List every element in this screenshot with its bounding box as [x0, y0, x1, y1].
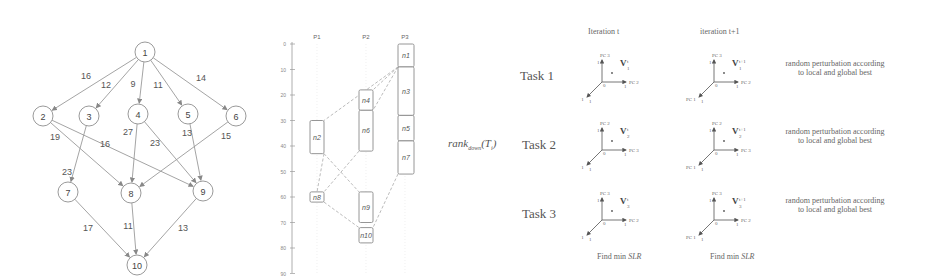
dependency-line: [324, 151, 359, 192]
edge-weight: 15: [221, 131, 231, 141]
velocity-vector-label: V: [620, 126, 627, 136]
task-1-label: Task 1: [520, 68, 554, 84]
axis-label-top: PC 2: [712, 121, 722, 126]
axis-label-right: PC 3: [629, 148, 639, 153]
velocity-vector-label: V: [732, 126, 739, 136]
dag-node: 6: [226, 106, 246, 126]
axis-label-right: PC 2: [741, 218, 751, 223]
axis-tick-one: 1: [701, 99, 704, 104]
velocity-vector-superscript: t+1: [739, 59, 746, 64]
task-box-label: n5: [402, 125, 410, 132]
find-min-text: Find min: [710, 252, 739, 261]
tick-label: 80: [280, 245, 286, 251]
axis-tick-one: 1: [709, 60, 712, 65]
perturb-line-2: to local and global best: [770, 136, 900, 145]
axis-origin: 0: [715, 221, 718, 226]
velocity-vector-superscript: t: [627, 59, 629, 64]
axis-diagonal: [699, 82, 714, 97]
axis-origin: 0: [603, 221, 606, 226]
slr-text: SLR: [628, 252, 641, 261]
axis-tick-one: 1: [597, 198, 600, 203]
dag-edge: [144, 198, 196, 256]
tick-label: 70: [280, 220, 286, 226]
edge-weight: 19: [50, 132, 60, 142]
velocity-vector-subscript: 2: [739, 134, 742, 139]
axis-label-left: PC 1: [580, 235, 584, 240]
axis-tick-one: 1: [589, 99, 592, 104]
scheduled-task: n8: [310, 192, 324, 202]
processor-label: P2: [362, 34, 370, 40]
axis-label-right: PC 2: [629, 218, 639, 223]
particle-axes: PC 3PC 2PC 11110Vt+11: [686, 53, 751, 104]
task-3-label: Task 3: [522, 206, 556, 222]
axis-label-left: PC 1: [686, 165, 696, 170]
axis-tick-one: 1: [701, 167, 704, 172]
rank-close: ): [493, 137, 497, 149]
axis-label-right: PC 2: [629, 80, 639, 85]
perturb-line-2: to local and global best: [770, 68, 900, 77]
edge-weight: 12: [101, 80, 111, 90]
axis-diagonal: [587, 150, 602, 165]
velocity-vector-label: V: [732, 196, 739, 206]
node-id: 10: [132, 261, 142, 271]
axis-label-top: PC 3: [712, 191, 722, 196]
axis-label-left: PC 1: [580, 165, 584, 170]
dependency-line: [324, 202, 359, 228]
time-axis-ticks: 0102030405060708090: [280, 41, 295, 277]
tick-label: 40: [280, 143, 286, 149]
task-box-label: n10: [360, 232, 372, 239]
edge-weight: 11: [123, 221, 132, 231]
task-box-label: n9: [362, 204, 370, 211]
node-id: 6: [233, 112, 238, 122]
dag-edges: [51, 57, 228, 257]
axis-tick-one: 1: [589, 167, 592, 172]
axis-label-top: PC 3: [600, 53, 610, 58]
velocity-vector-superscript: t+1: [739, 127, 746, 132]
axis-label-left: PC 1: [580, 97, 584, 102]
velocity-vector-label: V: [620, 196, 627, 206]
axis-diagonal: [587, 82, 602, 97]
tick-label: 60: [280, 194, 286, 200]
task-box-label: n2: [313, 134, 321, 141]
processor-label: P1: [313, 34, 321, 40]
axis-origin: 0: [603, 83, 606, 88]
particle-axes: PC 2PC 3PC 11110Vt+12: [686, 121, 751, 172]
axis-label-left: PC 1: [686, 235, 696, 240]
scheduled-task: n1: [398, 44, 414, 67]
dag-edge: [52, 57, 136, 110]
task-dag: 16129111419162327231315171113 1234567891…: [0, 0, 260, 280]
tick-label: 90: [280, 271, 286, 277]
axis-diagonal: [699, 220, 714, 235]
velocity-vector-label: V: [732, 58, 739, 68]
scheduled-task: n2: [310, 121, 324, 154]
dag-node: 8: [121, 183, 141, 203]
particle-point: [723, 140, 725, 142]
perturb-line-1: random perturbation according: [770, 196, 900, 205]
node-id: 2: [40, 112, 45, 122]
particle-axes: PC 3PC 2PC 11110Vt3: [580, 191, 639, 242]
edge-weight: 16: [100, 139, 110, 149]
perturbation-note-task-3: random perturbation according to local a…: [770, 196, 900, 214]
scheduled-task: n6: [359, 110, 373, 151]
dag-node: 7: [58, 182, 78, 202]
scheduled-task: n3: [398, 67, 414, 115]
edge-weight: 13: [178, 223, 188, 233]
scheduled-task: n5: [398, 115, 414, 140]
tick-label: 0: [283, 41, 286, 47]
dependency-line: [317, 154, 324, 192]
edge-weight: 27: [123, 127, 133, 137]
task-box-label: n8: [313, 194, 321, 201]
node-id: 1: [142, 48, 147, 58]
axis-tick-one: 1: [624, 84, 627, 89]
edge-weight: 23: [150, 138, 160, 148]
velocity-vector-superscript: t: [627, 197, 629, 202]
axis-tick-one: 1: [709, 198, 712, 203]
edge-weight: 23: [62, 167, 72, 177]
tick-label: 10: [280, 67, 286, 73]
dag-node: 3: [79, 106, 99, 126]
dag-edge: [71, 126, 86, 182]
velocity-vector-subscript: 3: [627, 204, 630, 209]
velocity-vector-superscript: t+1: [739, 197, 746, 202]
find-min-slr-t: Find min SLR: [597, 252, 641, 261]
perturb-line-2: to local and global best: [770, 205, 900, 214]
